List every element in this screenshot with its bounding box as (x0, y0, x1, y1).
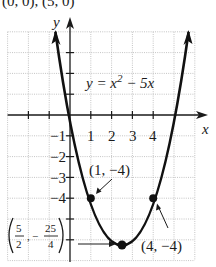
annotation-4-neg4: (4, −4) (141, 238, 182, 255)
point-1-neg4 (87, 194, 95, 202)
parabola-chart: (0, 0), (5, 0) (0, 0, 216, 267)
pointer-arrowhead-icon (156, 204, 161, 211)
y-tick-labels: −1 −2 −3 −4 (50, 128, 66, 206)
parabola-curve (55, 32, 188, 245)
annotation-vertex: 5 2 , − 25 4 (9, 218, 63, 253)
x-tick-label: 3 (129, 128, 137, 144)
y-tick-label: −4 (50, 190, 66, 206)
x-tick-label: 1 (87, 128, 95, 144)
svg-text:4: 4 (48, 238, 54, 250)
equation-label: y = x2 − 5x (84, 72, 155, 91)
svg-text:25: 25 (45, 222, 57, 234)
x-axis (8, 111, 208, 119)
svg-text:5: 5 (16, 222, 22, 234)
pointer-arrowhead-icon (96, 188, 102, 195)
y-axis-label: y (51, 14, 60, 30)
pointer-4-neg4 (158, 206, 168, 228)
x-axis-label: x (201, 121, 209, 137)
header-clipped-text: (0, 0), (5, 0) (2, 0, 74, 10)
svg-text:−: − (32, 230, 38, 242)
pointer-1-neg4 (98, 179, 112, 192)
y-tick-label: −2 (50, 149, 66, 165)
y-tick-label: −3 (50, 170, 66, 186)
y-tick-label: −1 (50, 128, 66, 144)
svg-text:,: , (27, 230, 30, 242)
vertex-point (118, 241, 127, 250)
annotation-1-neg4: (1, −4) (89, 162, 130, 179)
x-tick-label: 2 (108, 128, 116, 144)
point-4-neg4 (149, 194, 157, 202)
x-tick-label: 4 (149, 128, 157, 144)
svg-text:2: 2 (16, 238, 22, 250)
